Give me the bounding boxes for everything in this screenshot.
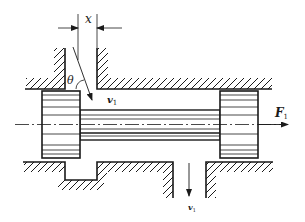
label-f1-sub: 1 — [284, 113, 288, 121]
label-f1: F1 — [274, 106, 288, 121]
label-v1-outlet: v1 — [188, 202, 196, 213]
label-v1-inlet-sub: 1 — [113, 99, 117, 107]
label-v1-inlet: v1 — [107, 94, 117, 107]
label-x: x — [85, 12, 92, 26]
valve-body-lower — [23, 162, 273, 198]
label-theta: θ — [67, 74, 74, 87]
valve-body-upper — [25, 48, 272, 89]
spool-rod — [80, 110, 220, 140]
spool-valve-diagram: x θ v1 v1 F1 — [0, 0, 305, 222]
label-v1-outlet-sub: 1 — [193, 207, 196, 213]
